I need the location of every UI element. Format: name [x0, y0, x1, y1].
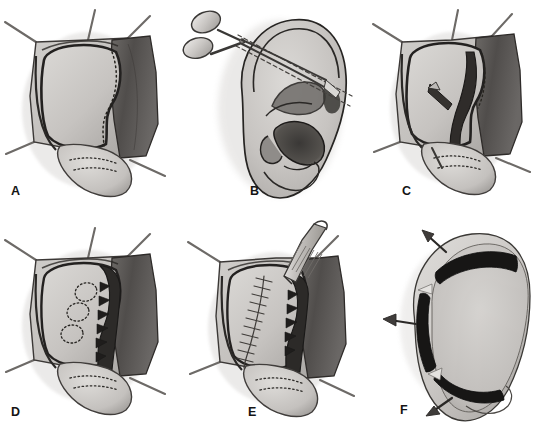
panel-label-c: C	[402, 185, 411, 198]
panel-a-exposure: A	[0, 0, 180, 215]
panel-c-illustration	[370, 0, 539, 215]
panel-label-b: B	[250, 185, 259, 198]
panel-label-d: D	[11, 406, 20, 419]
panel-d-illustration	[0, 220, 180, 434]
panel-e-illustration	[180, 220, 370, 434]
panel-a-illustration	[0, 0, 180, 215]
figure-root: A	[0, 0, 539, 434]
panel-label-e: E	[248, 406, 257, 419]
panel-b-scissors-incision: B	[180, 0, 370, 215]
scissors-loop-lower	[181, 35, 215, 62]
traction-arrow-superior	[422, 230, 446, 252]
panel-d-scoring: D	[0, 220, 180, 434]
panel-e-suturing: E	[180, 220, 370, 434]
panel-f-result: F	[370, 220, 539, 434]
panel-label-a: A	[11, 185, 20, 198]
panel-b-illustration	[180, 0, 370, 215]
panel-label-f: F	[400, 404, 408, 417]
scissors-loop-upper	[188, 7, 223, 37]
panel-c-cartilage-incision: C	[370, 0, 539, 215]
panel-f-illustration	[370, 220, 539, 434]
